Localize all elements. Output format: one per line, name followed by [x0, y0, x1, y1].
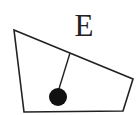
vertex-label: E: [75, 8, 94, 43]
pendulum-bob: [49, 88, 67, 106]
diagram-canvas: E: [0, 0, 138, 115]
quadrilateral-shape: [14, 30, 133, 112]
pendulum-rod: [58, 53, 70, 92]
